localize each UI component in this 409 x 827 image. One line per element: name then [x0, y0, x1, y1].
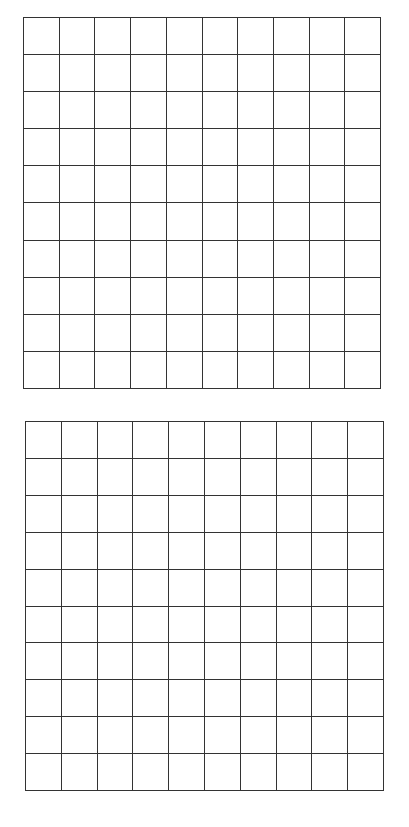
grid-cell	[98, 643, 134, 680]
grid-cell	[238, 166, 274, 203]
grid-cell	[312, 496, 348, 533]
grid-cell	[26, 680, 62, 717]
grid-cell	[60, 129, 96, 166]
grid-cell	[60, 92, 96, 129]
grid-cell	[98, 496, 134, 533]
grid-cell	[26, 754, 62, 791]
grid-cell	[203, 241, 239, 278]
grid-cell	[26, 570, 62, 607]
grid-cell	[167, 352, 203, 389]
grid-cell	[203, 278, 239, 315]
grid-cell	[310, 241, 346, 278]
grid-cell	[277, 496, 313, 533]
grid-cell	[348, 643, 384, 680]
grid-cell	[241, 533, 277, 570]
grid-cell	[169, 570, 205, 607]
grid-cell	[62, 643, 98, 680]
grid-cell	[62, 533, 98, 570]
grid-cell	[95, 166, 131, 203]
grid-cell	[24, 55, 60, 92]
grid-cell	[274, 315, 310, 352]
grid-cell	[241, 496, 277, 533]
grid-cell	[131, 278, 167, 315]
grid-cell	[205, 717, 241, 754]
grid-cell	[26, 459, 62, 496]
grid-cell	[205, 533, 241, 570]
grid-cell	[62, 717, 98, 754]
grid-cell	[169, 422, 205, 459]
grid-cell	[62, 459, 98, 496]
grid-cell	[131, 241, 167, 278]
grid-cell	[95, 55, 131, 92]
grid-cell	[98, 459, 134, 496]
grid-cell	[169, 754, 205, 791]
grid-cell	[241, 422, 277, 459]
grid-cell	[241, 680, 277, 717]
grid-cell	[274, 55, 310, 92]
grid-cell	[274, 241, 310, 278]
grid-cell	[345, 92, 381, 129]
grid-cell	[133, 717, 169, 754]
grid-cell	[131, 315, 167, 352]
grid-cell	[24, 18, 60, 55]
grid-cell	[277, 680, 313, 717]
bottom-grid	[25, 421, 384, 791]
grid-cell	[310, 129, 346, 166]
grid-cell	[203, 55, 239, 92]
grid-cell	[274, 352, 310, 389]
grid-cell	[277, 717, 313, 754]
grid-cell	[24, 315, 60, 352]
grid-cell	[345, 55, 381, 92]
grid-cell	[62, 680, 98, 717]
grid-cell	[277, 570, 313, 607]
grid-cell	[345, 278, 381, 315]
grid-cell	[238, 55, 274, 92]
grid-cell	[169, 533, 205, 570]
grid-cell	[310, 315, 346, 352]
grid-cell	[167, 241, 203, 278]
grid-cell	[348, 570, 384, 607]
grid-cell	[131, 166, 167, 203]
grid-cell	[167, 129, 203, 166]
grid-cell	[60, 55, 96, 92]
grid-cell	[169, 680, 205, 717]
grid-cell	[133, 459, 169, 496]
grid-cell	[238, 18, 274, 55]
grid-cell	[24, 129, 60, 166]
grid-cell	[131, 129, 167, 166]
grid-cell	[131, 92, 167, 129]
grid-cell	[62, 570, 98, 607]
grid-cell	[274, 92, 310, 129]
grid-cell	[312, 533, 348, 570]
grid-cell	[60, 18, 96, 55]
grid-cell	[345, 166, 381, 203]
grid-cell	[238, 278, 274, 315]
grid-cell	[95, 18, 131, 55]
grid-cell	[203, 203, 239, 240]
grid-cell	[60, 352, 96, 389]
grid-cell	[241, 607, 277, 644]
grid-cell	[310, 203, 346, 240]
grid-cell	[133, 422, 169, 459]
grid-cell	[203, 166, 239, 203]
grid-cell	[274, 18, 310, 55]
grid-cell	[310, 18, 346, 55]
grid-cell	[131, 55, 167, 92]
grid-cell	[26, 533, 62, 570]
grid-cell	[238, 129, 274, 166]
grid-cell	[98, 717, 134, 754]
grid-cell	[98, 570, 134, 607]
grid-cell	[348, 459, 384, 496]
grid-cell	[62, 422, 98, 459]
grid-cell	[345, 352, 381, 389]
grid-cell	[238, 315, 274, 352]
grid-cell	[238, 203, 274, 240]
grid-cell	[62, 496, 98, 533]
grid-cell	[277, 643, 313, 680]
grid-cell	[277, 607, 313, 644]
grid-cell	[167, 203, 203, 240]
grid-cell	[133, 643, 169, 680]
grid-cell	[277, 422, 313, 459]
grid-cell	[277, 533, 313, 570]
grid-cell	[203, 129, 239, 166]
